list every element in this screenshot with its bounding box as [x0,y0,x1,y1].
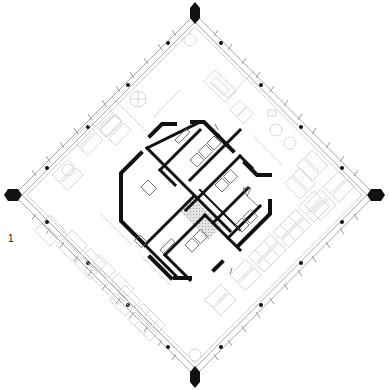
floor-number-label: 1 [8,233,14,244]
core [121,122,270,280]
floor-plan-drawing [0,0,389,390]
